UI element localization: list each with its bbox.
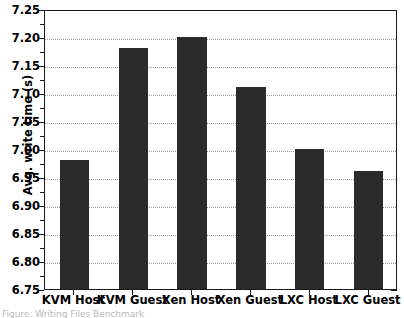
y-tick-label: 6.75 (0, 283, 40, 297)
x-tick-label: KVM Host (42, 293, 105, 307)
plot-area (44, 10, 397, 290)
figure-caption-clipped: Figure: Writing Files Benchmark (2, 309, 402, 318)
bar-xen-guest (236, 87, 265, 289)
bar-lxc-host (295, 149, 324, 289)
gridline (45, 179, 396, 180)
bar-lxc-guest (354, 171, 383, 289)
y-tick-label: 7.05 (0, 115, 40, 129)
x-tick-mark (368, 290, 369, 295)
x-tick-label: KVM Guest (97, 293, 168, 307)
y-tick-label: 7.20 (0, 31, 40, 45)
bar-chart-figure: Avg. write time (s) 6.756.806.856.906.95… (0, 0, 404, 318)
gridline (45, 123, 396, 124)
x-tick-label: Xen Guest (217, 293, 283, 307)
gridline (45, 263, 396, 264)
x-tick-mark (132, 290, 133, 295)
gridline (45, 67, 396, 68)
y-tick-label: 6.95 (0, 171, 40, 185)
x-tick-mark (309, 290, 310, 295)
x-tick-label: LXC Host (280, 293, 338, 307)
bar-kvm-guest (119, 48, 148, 289)
y-tick-label: 7.25 (0, 3, 40, 17)
gridline (45, 95, 396, 96)
y-tick-label: 6.80 (0, 255, 40, 269)
y-tick-label: 6.85 (0, 227, 40, 241)
x-tick-label: Xen Host (162, 293, 220, 307)
y-tick-label: 6.90 (0, 199, 40, 213)
y-tick-mark (38, 290, 44, 291)
y-tick-mark-right (391, 290, 397, 291)
x-tick-mark (250, 290, 251, 295)
bar-kvm-host (60, 160, 89, 289)
gridline (45, 207, 396, 208)
y-tick-label: 7.15 (0, 59, 40, 73)
x-tick-mark (73, 290, 74, 295)
y-tick-label: 7.10 (0, 87, 40, 101)
y-tick-label: 7.00 (0, 143, 40, 157)
bar-xen-host (177, 37, 206, 289)
x-tick-label: LXC Guest (335, 293, 401, 307)
gridline (45, 39, 396, 40)
x-tick-mark (191, 290, 192, 295)
gridline (45, 235, 396, 236)
gridline (45, 151, 396, 152)
